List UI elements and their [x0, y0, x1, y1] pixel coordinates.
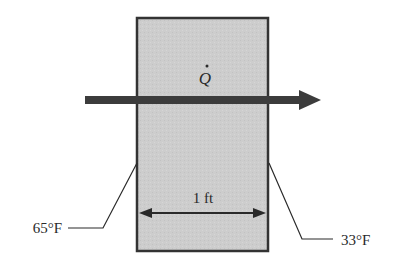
right-temperature-label: 33°F	[341, 232, 370, 248]
left-leader-line	[68, 163, 137, 228]
diagram-canvas: Q 1 ft 65°F 33°F	[0, 0, 400, 264]
heat-flow-arrowhead	[299, 90, 321, 110]
time-derivative-dot	[206, 65, 209, 68]
wall-diagram: Q 1 ft 65°F 33°F	[0, 0, 400, 264]
wall-slab	[137, 18, 268, 251]
heat-rate-symbol: Q	[199, 69, 211, 88]
right-leader-line	[269, 163, 333, 239]
right-temperature-callout: 33°F	[269, 163, 370, 248]
left-temperature-label: 65°F	[33, 220, 62, 236]
left-temperature-callout: 65°F	[33, 163, 137, 236]
heat-rate-label: Q	[199, 65, 211, 89]
heat-flow-arrow-shaft	[85, 96, 301, 104]
thickness-label: 1 ft	[193, 190, 214, 206]
